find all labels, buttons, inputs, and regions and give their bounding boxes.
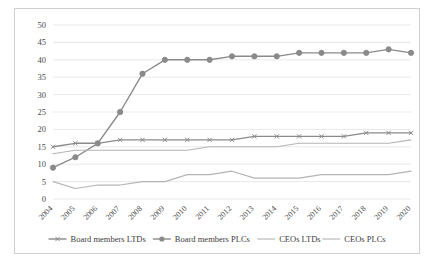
data-point <box>229 54 234 59</box>
legend-label: CEOs PLCs <box>344 234 385 244</box>
data-point <box>118 109 123 114</box>
x-axis-tick-label: 2009 <box>149 204 167 222</box>
x-axis-tick-label: 2012 <box>216 204 234 222</box>
data-point <box>95 141 100 146</box>
data-point <box>207 57 212 62</box>
legend-label: CEOs LTDs <box>279 234 320 244</box>
legend-label: Board members PLCs <box>175 234 250 244</box>
y-axis-tick-label: 35 <box>38 72 47 82</box>
chart-legend: Board members LTDsBoard members PLCsCEOs… <box>49 234 386 244</box>
x-axis-tick-label: 2005 <box>59 204 77 222</box>
chart-container: 05101520253035404550 2004200520062007200… <box>14 8 420 254</box>
data-series-layer <box>50 47 413 189</box>
series-line <box>53 171 411 188</box>
x-axis-tick-label: 2007 <box>104 204 122 222</box>
legend-item[interactable]: Board members LTDs <box>49 234 146 244</box>
legend-item[interactable]: Board members PLCs <box>153 234 250 244</box>
x-axis-tick-label: 2013 <box>238 204 256 222</box>
x-axis-tick-label: 2014 <box>260 204 278 222</box>
x-axis-tick-label: 2018 <box>350 204 368 222</box>
y-axis-tick-label: 40 <box>38 55 47 65</box>
y-axis-tick-label: 0 <box>42 194 46 204</box>
data-point <box>274 54 279 59</box>
x-axis-tick-label: 2011 <box>194 204 211 221</box>
x-axis-tick-label: 2006 <box>81 204 99 222</box>
y-axis-tick-label: 10 <box>38 159 47 169</box>
data-point <box>185 57 190 62</box>
x-axis-tick-label: 2017 <box>328 204 346 222</box>
data-point <box>386 47 391 52</box>
data-point <box>319 50 324 55</box>
data-point <box>73 155 78 160</box>
x-axis-tick-label: 2015 <box>283 204 301 222</box>
data-point <box>341 50 346 55</box>
y-axis-tick-label: 5 <box>42 177 46 187</box>
y-axis-tick-label: 30 <box>38 90 47 100</box>
data-point <box>408 50 413 55</box>
legend-item[interactable]: CEOs LTDs <box>257 234 320 244</box>
gridlines <box>53 25 411 199</box>
x-axis-tick-label: 2020 <box>395 204 413 222</box>
x-axis-tick-label: 2008 <box>126 204 144 222</box>
x-axis-tick-label: 2019 <box>372 204 390 222</box>
x-axis-tick-label: 2016 <box>305 204 323 222</box>
y-axis-tick-label: 20 <box>38 124 47 134</box>
data-point <box>50 165 55 170</box>
line-chart: 05101520253035404550 2004200520062007200… <box>15 9 421 255</box>
y-axis-tick-label: 25 <box>38 107 47 117</box>
data-point <box>140 71 145 76</box>
legend-label: Board members LTDs <box>71 234 146 244</box>
data-point <box>162 57 167 62</box>
x-axis-tick-label: 2004 <box>37 204 55 222</box>
y-axis-tick-label: 45 <box>38 37 47 47</box>
y-axis-tick-label: 50 <box>38 20 47 30</box>
y-axis-tick-label: 15 <box>38 142 47 152</box>
series-ceos-plcs <box>53 171 411 188</box>
legend-marker <box>159 236 164 241</box>
y-axis-tick-labels: 05101520253035404550 <box>38 20 47 204</box>
data-point <box>364 50 369 55</box>
x-axis-tick-label: 2010 <box>171 204 189 222</box>
data-point <box>252 54 257 59</box>
data-point <box>297 50 302 55</box>
legend-item[interactable]: CEOs PLCs <box>322 234 385 244</box>
series-board-members-plcs <box>50 47 413 171</box>
chart-plot-area: 05101520253035404550 2004200520062007200… <box>15 9 421 255</box>
x-axis-tick-labels: 2004200520062007200820092010201120122013… <box>37 204 413 222</box>
